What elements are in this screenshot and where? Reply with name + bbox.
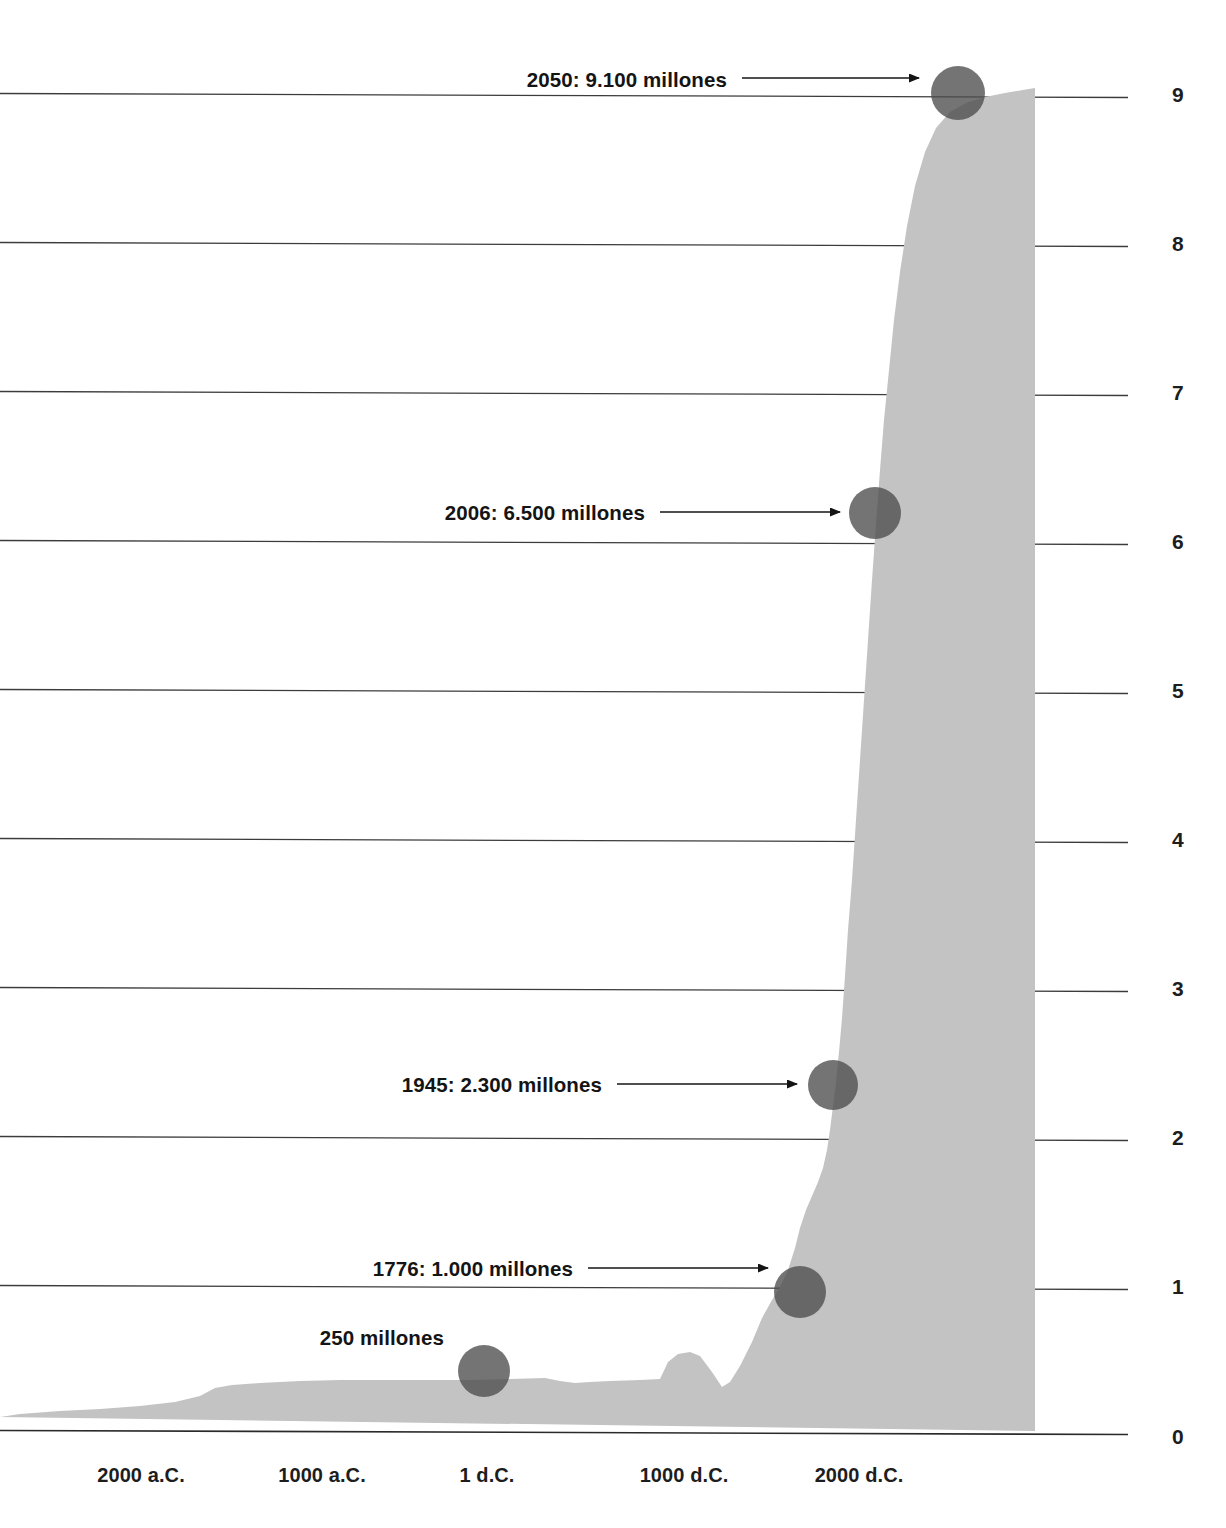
- xtick-label-2000-dc: 2000 d.C.: [815, 1465, 904, 1485]
- ytick-label-5: 5: [1172, 680, 1184, 701]
- marker-2050: [931, 66, 985, 120]
- ytick-label-3: 3: [1172, 978, 1184, 999]
- ytick-label-9: 9: [1172, 84, 1184, 105]
- marker-250: [458, 1345, 510, 1397]
- ytick-label-0: 0: [1172, 1426, 1184, 1447]
- annotation-label-250: 250 millones: [320, 1328, 444, 1349]
- ytick-label-6: 6: [1172, 531, 1184, 552]
- xtick-label-1-dc: 1 d.C.: [459, 1465, 514, 1485]
- x-axis-baseline: [0, 1431, 1128, 1435]
- xtick-label-1000-ac: 1000 a.C.: [278, 1465, 366, 1485]
- annotation-label-1776: 1776: 1.000 millones: [373, 1259, 573, 1280]
- xtick-label-2000-ac: 2000 a.C.: [97, 1465, 185, 1485]
- annotation-label-2006: 2006: 6.500 millones: [445, 503, 645, 524]
- marker-1776: [774, 1266, 826, 1318]
- annotation-label-2050: 2050: 9.100 millones: [527, 70, 727, 91]
- ytick-label-7: 7: [1172, 382, 1184, 403]
- ytick-label-2: 2: [1172, 1127, 1184, 1148]
- population-growth-area-chart: 9 8 7 6 5 4 3 2 1 0 2000 a.C. 1000 a.C. …: [0, 0, 1226, 1528]
- ytick-label-4: 4: [1172, 829, 1184, 850]
- marker-1945: [808, 1060, 858, 1110]
- population-area-fill: [0, 88, 1035, 1431]
- marker-2006: [849, 487, 901, 539]
- xtick-label-1000-dc: 1000 d.C.: [640, 1465, 729, 1485]
- chart-plot-area: [0, 0, 1226, 1528]
- ytick-label-8: 8: [1172, 233, 1184, 254]
- ytick-label-1: 1: [1172, 1276, 1184, 1297]
- annotation-label-1945: 1945: 2.300 millones: [402, 1075, 602, 1096]
